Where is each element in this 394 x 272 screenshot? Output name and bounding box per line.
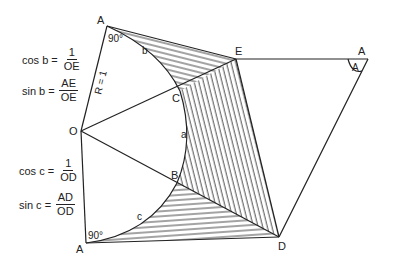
point-label-E: E	[235, 45, 242, 57]
denominator: OD	[58, 171, 79, 183]
fraction: 1 OE	[62, 47, 82, 72]
formula-cos-b: cos b = 1 OE	[22, 47, 82, 72]
numerator: 1	[67, 47, 77, 60]
point-label-A-right: A	[358, 45, 366, 57]
fraction: 1 OD	[58, 158, 79, 183]
formula-sin-c: sin c = AD OD	[19, 192, 76, 217]
numerator: AE	[59, 78, 78, 91]
spherical-triangle-diagram: A O A C B E D A 90° 90° b a c A R = 1 co…	[0, 0, 394, 272]
angle-label-top: 90°	[108, 33, 123, 44]
numerator: AD	[56, 192, 75, 205]
point-label-O: O	[69, 125, 78, 137]
radius-label: R = 1	[92, 69, 109, 96]
numerator: 1	[63, 158, 73, 171]
formula-lhs: cos b =	[22, 54, 58, 66]
angle-label-bottom: 90°	[88, 230, 103, 241]
formula-sin-b: sin b = AE OE	[22, 78, 79, 103]
formula-lhs: sin c =	[19, 199, 51, 211]
point-label-D: D	[278, 240, 286, 252]
denominator: OE	[59, 91, 79, 103]
line-AD-right	[279, 59, 368, 237]
point-label-B: B	[171, 169, 178, 181]
angle-label-right: A	[352, 62, 359, 73]
denominator: OD	[55, 205, 76, 217]
formula-lhs: sin b =	[22, 85, 55, 97]
arc-label-a: a	[181, 129, 187, 140]
point-label-C: C	[172, 92, 180, 104]
arc-label-c: c	[137, 211, 142, 222]
arc-label-b: b	[142, 45, 148, 56]
formula-cos-c: cos c = 1 OD	[19, 158, 79, 183]
point-label-A-top: A	[97, 14, 105, 26]
fraction: AD OD	[55, 192, 76, 217]
point-label-A-bottom: A	[76, 243, 84, 255]
line-OA-bottom	[81, 131, 86, 243]
fraction: AE OE	[59, 78, 79, 103]
formula-lhs: cos c =	[19, 165, 54, 177]
denominator: OE	[62, 60, 82, 72]
